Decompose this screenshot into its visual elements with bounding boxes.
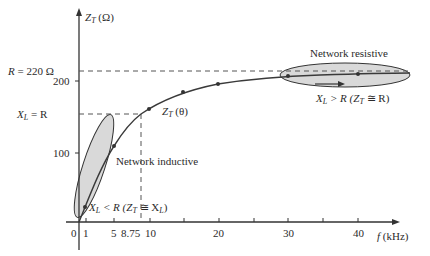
y-axis-label: ZT (Ω) xyxy=(85,11,114,25)
x-tick-label-10: 10 xyxy=(145,227,157,239)
network-resistive-label: Network resistive xyxy=(310,47,388,59)
resistive-condition-label: XL > R (ZT ≅ R) xyxy=(315,92,390,106)
network-inductive-label: Network inductive xyxy=(116,155,198,167)
y-tick-label-200: 200 xyxy=(53,75,70,87)
x-axis-arrow-icon xyxy=(392,219,400,225)
impedance-chart: ZT (Ω) R = 220 Ω 200 100 XL = R 0 1 5 8.… xyxy=(0,0,430,256)
x-tick-label-5: 5 xyxy=(111,227,117,239)
x-tick-label-0: 0 xyxy=(71,227,77,239)
x-tick-label-1: 1 xyxy=(83,227,89,239)
x-tick-label-30: 30 xyxy=(283,227,295,239)
inductive-condition-label: XL < R (ZT ≅ XL) xyxy=(88,201,168,215)
impedance-curve xyxy=(79,73,410,222)
resistive-region-ellipse xyxy=(280,63,410,87)
x-tick-label-8-75: 8.75 xyxy=(121,227,141,239)
r-220-label: R = 220 Ω xyxy=(7,65,54,77)
y-axis-arrow-icon xyxy=(76,8,82,16)
curve-label: ZT (θ) xyxy=(162,105,188,119)
xl-equals-r-label: XL = R xyxy=(16,108,48,122)
x-tick-label-40: 40 xyxy=(353,227,365,239)
y-tick-label-100: 100 xyxy=(53,147,70,159)
x-tick-label-20: 20 xyxy=(213,227,225,239)
x-axis-label: f (kHz) xyxy=(377,230,409,243)
